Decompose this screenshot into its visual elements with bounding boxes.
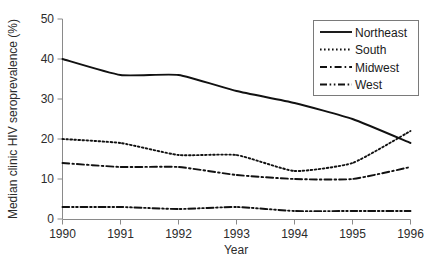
legend-label-midwest: Midwest [355, 61, 400, 75]
y-tick-label: 30 [41, 92, 55, 106]
legend-label-northeast: Northeast [355, 26, 408, 40]
y-axis-title: Median clinic HIV seroprevalence (%) [6, 19, 20, 219]
x-tick-label: 1994 [281, 227, 308, 241]
y-tick-label: 10 [41, 172, 55, 186]
x-tick-label: 1990 [49, 227, 76, 241]
legend-label-west: West [355, 78, 383, 92]
chart-figure: 01020304050 Median clinic HIV seropreval… [0, 0, 431, 263]
x-tick-label: 1992 [165, 227, 192, 241]
y-tick-label: 20 [41, 132, 55, 146]
line-chart-canvas: 01020304050 Median clinic HIV seropreval… [0, 0, 431, 263]
legend-label-south: South [355, 43, 386, 57]
chart-legend: NortheastSouthMidwestWest [314, 21, 419, 96]
x-tick-label: 1995 [339, 227, 366, 241]
x-tick-label: 1996 [397, 227, 424, 241]
x-tick-label: 1993 [223, 227, 250, 241]
y-tick-label: 50 [41, 12, 55, 26]
x-axis-title: Year [224, 243, 248, 257]
x-tick-label: 1991 [107, 227, 134, 241]
y-tick-label: 0 [47, 212, 54, 226]
y-tick-label: 40 [41, 52, 55, 66]
